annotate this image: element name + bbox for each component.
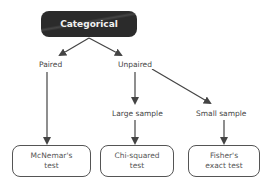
- leaf-line1: Chi-squared: [114, 151, 159, 161]
- leaf-fisher-exact-test: Fisher's exact test: [188, 145, 260, 177]
- leaf-line1: Fisher's: [210, 151, 238, 161]
- label-small-sample: Small sample: [195, 109, 247, 118]
- root-label: Categorical: [60, 19, 118, 29]
- label-unpaired: Unpaired: [117, 60, 153, 69]
- label-large-sample: Large sample: [111, 109, 164, 118]
- leaf-chi-squared-test: Chi-squared test: [100, 145, 174, 177]
- label-paired: Paired: [38, 60, 63, 69]
- leaf-line2: test: [44, 161, 58, 171]
- leaf-line2: test: [130, 161, 144, 171]
- root-node-categorical: Categorical: [41, 11, 137, 37]
- leaf-line2: exact test: [205, 161, 242, 171]
- leaf-line1: McNemar's: [31, 151, 73, 161]
- leaf-mcnemar-test: McNemar's test: [12, 145, 91, 177]
